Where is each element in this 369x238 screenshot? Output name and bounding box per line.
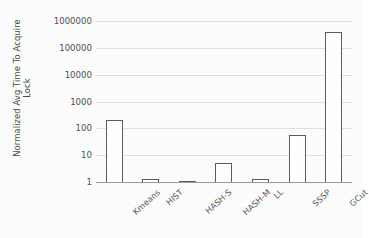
y-tick-label: 1000000 — [30, 16, 92, 26]
y-tick-label: 10000 — [30, 70, 92, 80]
x-axis-tick-labels: KmeansHISTHASH-SHASH-MLLSSSPGCut — [96, 182, 352, 238]
bar-kmeans[interactable] — [106, 120, 123, 182]
x-tick-label-kmeans: Kmeans — [131, 187, 163, 217]
y-tick-label: 1000 — [30, 97, 92, 107]
x-tick-label-hist: HIST — [164, 187, 185, 207]
y-axis-tick-labels: 1101001000100001000001000000 — [30, 21, 92, 182]
bar-slot[interactable] — [206, 21, 243, 182]
bar-slot[interactable] — [242, 21, 279, 182]
bar-slot[interactable] — [279, 21, 316, 182]
bar-gcut[interactable] — [325, 32, 342, 182]
bar-slot[interactable] — [133, 21, 170, 182]
bar-slot[interactable] — [96, 21, 133, 182]
y-tick-label: 100000 — [30, 43, 92, 53]
x-tick-label-gcut: GCut — [347, 187, 369, 208]
y-tick-label: 100 — [30, 123, 92, 133]
bar-sssp[interactable] — [289, 135, 306, 182]
x-tick-label-sssp: SSSP — [311, 187, 333, 208]
y-axis-title-line-1: Normalized Avg Time To Acquire — [12, 19, 23, 157]
bar-hash-m[interactable] — [215, 163, 232, 182]
y-tick-label: 1 — [30, 177, 92, 187]
y-tick-label: 10 — [30, 150, 92, 160]
x-tick-label-hash-m: HASH-M — [241, 187, 273, 217]
bar-slot[interactable] — [315, 21, 352, 182]
plot-area — [96, 21, 352, 182]
bar-slot[interactable] — [169, 21, 206, 182]
x-tick-label-ll: LL — [271, 187, 285, 201]
x-tick-label-hash-s: HASH-S — [204, 187, 234, 216]
